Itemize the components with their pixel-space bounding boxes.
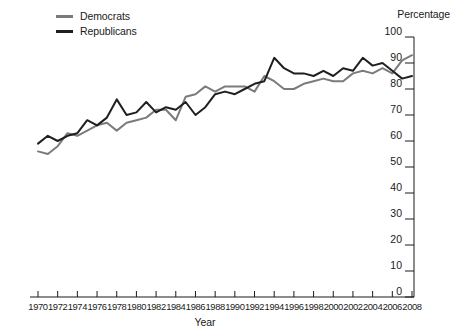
x-tick-label-1998: 1998 [304, 301, 323, 312]
x-tick-label-1996: 1996 [284, 301, 303, 312]
x-tick-label-1978: 1978 [107, 301, 126, 312]
x-tick-label-1972: 1972 [48, 301, 67, 312]
x-axis-title-wrap: Year [0, 316, 458, 328]
x-tick-label-1974: 1974 [68, 301, 87, 312]
x-tick-label-1984: 1984 [166, 301, 185, 312]
x-tick-label-2004: 2004 [363, 301, 382, 312]
x-tick-label-1988: 1988 [206, 301, 225, 312]
x-tick-label-2002: 2002 [343, 301, 362, 312]
y-tick-label-50: 50 [390, 155, 402, 167]
y-tick-label-10: 10 [390, 259, 402, 271]
x-tick-label-1980: 1980 [127, 301, 146, 312]
y-tick-label-80: 80 [390, 77, 402, 89]
y-tick-label-70: 70 [390, 103, 402, 115]
series-line-republicans [38, 58, 412, 144]
y-tick-label-60: 60 [390, 129, 402, 141]
x-tick-label-1970: 1970 [28, 301, 47, 312]
data-series-group [38, 55, 412, 154]
x-tick-label-1976: 1976 [87, 301, 106, 312]
y-tick-label-20: 20 [390, 233, 402, 245]
x-tick-label-1982: 1982 [146, 301, 165, 312]
x-tick-label-1992: 1992 [245, 301, 264, 312]
x-axis-title: Year [195, 316, 216, 328]
line-chart: Democrats Republicans Percentage 0102030… [0, 0, 458, 335]
y-tick-label-30: 30 [390, 207, 402, 219]
y-tick-label-0: 0 [396, 285, 402, 297]
y-tick-label-40: 40 [390, 181, 402, 193]
x-tick-label-2000: 2000 [324, 301, 343, 312]
x-tick-label-2006: 2006 [383, 301, 402, 312]
x-tick-label-2008: 2008 [402, 301, 421, 312]
x-tick-label-1990: 1990 [225, 301, 244, 312]
y-tick-label-100: 100 [384, 25, 402, 37]
x-axis: 1970197219741976197819801982198419861988… [28, 291, 421, 312]
plot-area: 0102030405060708090100 19701972197419761… [0, 0, 458, 335]
series-line-democrats [38, 55, 412, 154]
x-tick-label-1994: 1994 [265, 301, 284, 312]
x-tick-label-1986: 1986 [186, 301, 205, 312]
